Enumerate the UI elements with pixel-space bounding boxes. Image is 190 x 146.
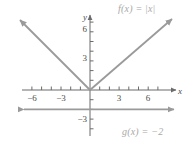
y-axis-ticks [90,22,94,129]
graph-canvas [0,0,190,146]
x-axis-ticks [32,87,158,91]
x-tick-label-6: 6 [143,93,153,103]
curve-f-right-ray [90,19,172,90]
y-tick-label-3: 3 [77,53,87,63]
x-tick-label-3: 3 [114,93,124,103]
absolute-value-graph-figure: x y −6 −3 3 6 6 3 −3 f(x) = |x| g(x) = −… [0,0,190,146]
y-tick-label-minus3: −3 [71,114,87,124]
y-tick-label-6: 6 [77,24,87,34]
function-label-g: g(x) = −2 [122,126,163,137]
x-tick-label-minus6: −6 [24,93,40,103]
x-tick-label-minus3: −3 [53,93,69,103]
x-axis-label: x [178,86,182,96]
function-label-f: f(x) = |x| [118,3,156,14]
y-axis-label: y [83,12,87,22]
